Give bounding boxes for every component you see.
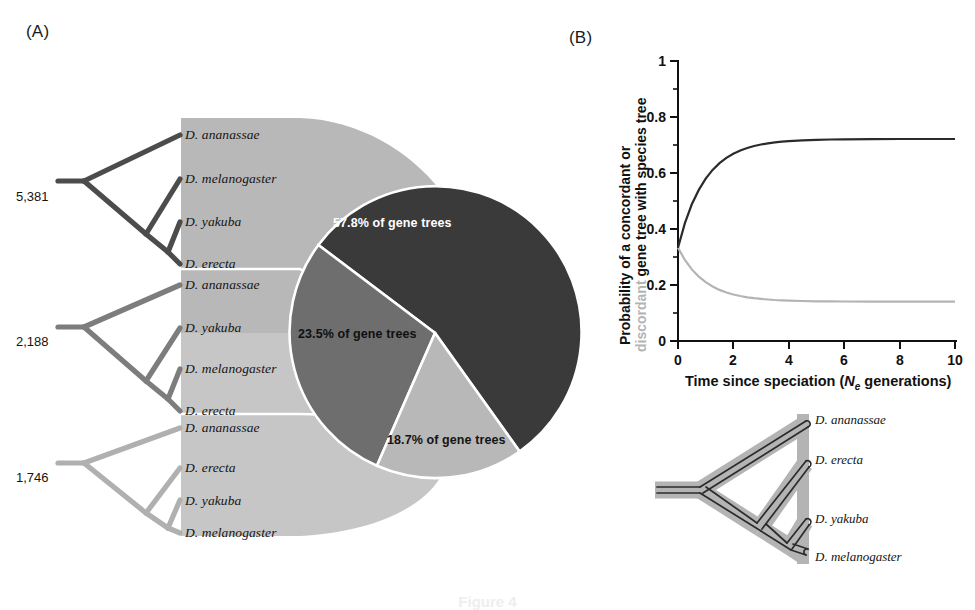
tree-3-count: 1,746 (16, 470, 49, 485)
species-tree-band (655, 414, 809, 564)
tree-2-tip-3: D. melanogaster (185, 361, 277, 377)
tree-1-tip-2: D. melanogaster (185, 171, 277, 187)
panel-a-letter: (A) (26, 22, 49, 42)
pie-label-57-8: 57.8% of gene trees (333, 216, 452, 230)
tree-3-tip-3: D. yakuba (185, 493, 241, 509)
y-tick-0-2: 0.2 (630, 277, 666, 293)
tree-2-tip-1: D. ananassae (185, 277, 260, 293)
species-tree-tip-2: D. erecta (815, 452, 863, 468)
tree-3-tip-2: D. erecta (185, 460, 236, 476)
y-major-ticks (670, 61, 678, 341)
figure-caption: Figure 4 (0, 593, 975, 610)
x-tick-0: 0 (658, 352, 698, 368)
tree-2-count: 2,188 (16, 334, 49, 349)
tree-2-tip-2: D. yakuba (185, 320, 241, 336)
species-tree-lineages (657, 421, 811, 555)
tree-1-tip-3: D. yakuba (185, 214, 241, 230)
x-tick-8: 8 (880, 352, 920, 368)
x-tick-4: 4 (769, 352, 809, 368)
curve-concordant (678, 139, 955, 248)
x-major-ticks (678, 341, 955, 349)
y-tick-0-4: 0.4 (630, 221, 666, 237)
panel-b-letter: (B) (569, 28, 592, 48)
x-axis-title-pre: Time since speciation ( (685, 373, 844, 389)
species-tree-tip-4: D. melanogaster (815, 549, 902, 565)
x-axis-title-ne: N (844, 373, 854, 389)
pie-slice-18-7[interactable] (377, 333, 520, 478)
species-tree-tip-1: D. ananassae (815, 412, 886, 428)
y-tick-0-8: 0.8 (630, 109, 666, 125)
x-tick-2: 2 (713, 352, 753, 368)
y-tick-0-6: 0.6 (630, 165, 666, 181)
curve-discordant (678, 248, 955, 302)
tree-1-branches (58, 135, 180, 264)
tree-1-count: 5,381 (16, 189, 49, 204)
tree-3-tip-4: D. melanogaster (185, 525, 277, 541)
y-minor-ticks (673, 89, 678, 313)
tree-3-tip-1: D. ananassae (185, 420, 260, 436)
y-tick-0: 0 (630, 333, 666, 349)
tree-2-branches (58, 285, 180, 411)
x-axis-title-post: generations) (860, 373, 951, 389)
x-tick-6: 6 (824, 352, 864, 368)
pie-label-18-7: 18.7% of gene trees (387, 433, 506, 447)
tree-3-branches (58, 428, 180, 533)
tree-2-tip-4: D. erecta (185, 403, 236, 419)
species-tree-tip-3: D. yakuba (815, 511, 868, 527)
tree-1-tip-1: D. ananassae (185, 127, 260, 143)
pie-label-23-5: 23.5% of gene trees (298, 327, 417, 341)
x-tick-10: 10 (935, 352, 975, 368)
tree-1-tip-4: D. erecta (185, 256, 236, 272)
x-axis-title: Time since speciation (Ne generations) (685, 373, 951, 392)
y-tick-1: 1 (630, 53, 666, 69)
